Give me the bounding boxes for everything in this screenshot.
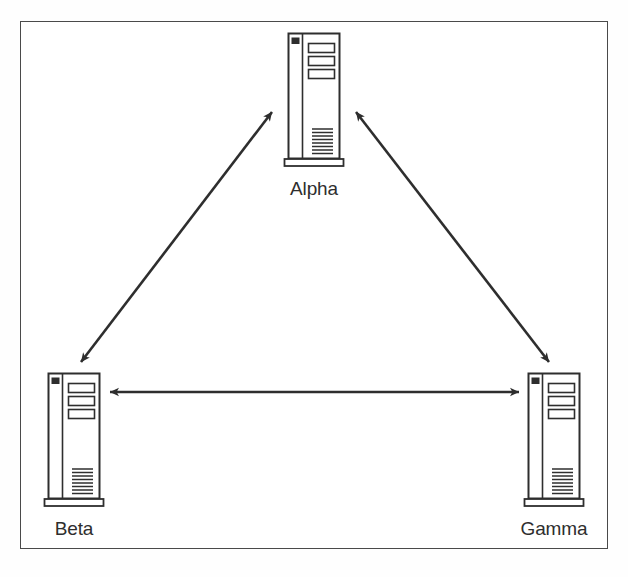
node-label-beta: Beta	[0, 517, 154, 541]
server-tower-icon[interactable]	[523, 371, 585, 517]
server-tower-icon[interactable]	[283, 31, 345, 177]
node-label-gamma: Gamma	[474, 517, 628, 541]
node-label-alpha: Alpha	[234, 177, 394, 201]
figure-caption	[20, 556, 608, 574]
server-tower-icon[interactable]	[43, 371, 105, 517]
figure-root: Alpha	[0, 0, 628, 577]
